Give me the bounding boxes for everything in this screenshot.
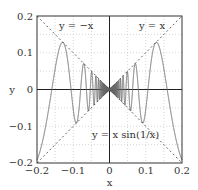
y-axis-label: y — [8, 84, 15, 95]
annotation-curve: y = x sin(1/x) — [91, 129, 159, 140]
y-tick-0.2: 0.2 — [17, 11, 33, 22]
y-tick-0.1: 0.1 — [17, 47, 33, 58]
x-tick-neg-0.1: −0.1 — [61, 165, 85, 176]
x-tick-neg-0.2: −0.2 — [25, 165, 49, 176]
chart: y = −x y = x y = x sin(1/x) 0.2 0.1 0 −0… — [0, 0, 198, 190]
annotation-y-eq-neg-x: y = −x — [58, 20, 94, 31]
annotation-y-eq-x: y = x — [138, 20, 165, 31]
y-tick-0: 0 — [27, 84, 33, 95]
x-axis-label: x — [107, 177, 113, 188]
x-tick-0.1: 0.1 — [138, 165, 154, 176]
x-tick-0: 0 — [106, 165, 112, 176]
y-tick-neg-0.1: −0.1 — [9, 121, 33, 132]
x-tick-0.2: 0.2 — [174, 165, 190, 176]
